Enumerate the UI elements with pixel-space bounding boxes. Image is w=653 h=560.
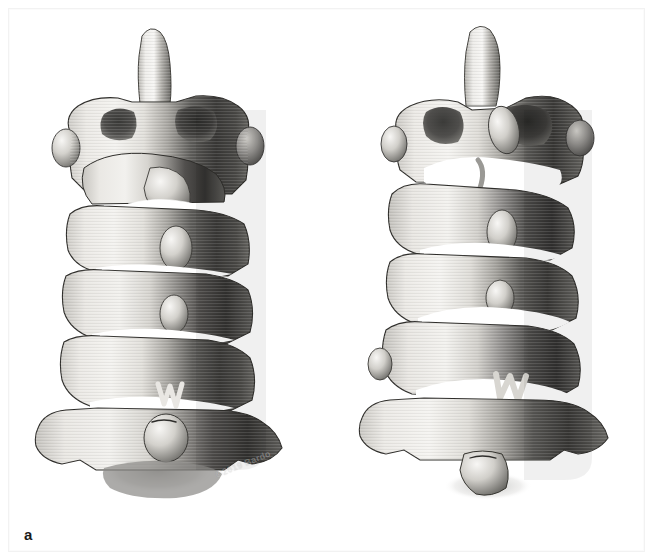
anterior-tubercle-a (144, 414, 188, 462)
left-lateral-mass-b (381, 126, 407, 162)
c4-uncinate-knob-a (160, 295, 188, 333)
panel-container: ©2019 Bardo a (0, 0, 653, 560)
cervical-spine-render-b (320, 18, 653, 513)
cervical-spine-render-a (0, 18, 330, 513)
panel-a[interactable]: ©2019 Bardo a (0, 0, 330, 560)
odontoid-striping-b (465, 26, 501, 106)
panel-label-a: a (24, 527, 32, 542)
left-recess-b (423, 107, 464, 144)
figure-root: ©2019 Bardo a (0, 0, 653, 560)
column-shadow-a (196, 98, 266, 470)
panel-b[interactable]: ©2019 Bardo b (320, 0, 653, 560)
column-shadow-b (524, 98, 592, 480)
c3-uncinate-knob-a (160, 226, 192, 270)
left-transverse-tubercle-b (368, 348, 392, 380)
odontoid-shading-a (138, 29, 171, 104)
